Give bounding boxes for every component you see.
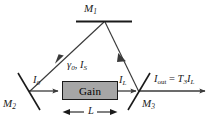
mirror-label-m3: M3: [142, 98, 155, 111]
ring-laser-cavity-figure: M1 M2 M3 I0 IL γ0, IS Iout = T3IL L Gain: [0, 0, 212, 125]
beam-label-input-intensity: I0: [33, 75, 40, 87]
diagram-canvas: [0, 0, 212, 125]
mirror-label-m1: M1: [84, 3, 97, 16]
beam-label-output-intensity: IL: [119, 75, 126, 87]
gain-medium-label: Gain: [79, 85, 101, 97]
gain-length-label: L: [88, 106, 94, 117]
output-beam-equation: Iout = T3IL: [154, 74, 194, 86]
gain-parameters-label: γ0, IS: [67, 60, 87, 72]
gain-medium-box: Gain: [62, 81, 118, 100]
mirror-label-m2: M2: [3, 98, 16, 111]
length-arrow-left: [63, 109, 71, 115]
beam-arrow-up-left: [117, 53, 126, 62]
beam-arrow-down-left: [55, 54, 64, 64]
length-arrow-right: [110, 109, 118, 115]
